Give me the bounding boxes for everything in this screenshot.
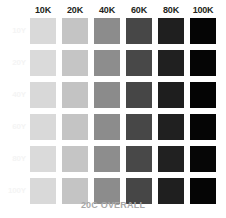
column-header-20k: 20K	[62, 3, 88, 18]
swatch-row: 10Y	[0, 18, 226, 44]
swatch-cell	[62, 82, 88, 108]
row-label-60y: 60Y	[0, 114, 30, 140]
swatch-cell	[158, 50, 184, 76]
swatch-row: 20Y	[0, 50, 226, 76]
swatch-row: 40Y	[0, 82, 226, 108]
swatch-cell	[62, 18, 88, 44]
column-header-100k: 100K	[190, 3, 216, 18]
swatch-cell	[190, 82, 216, 108]
swatch-cell	[94, 114, 120, 140]
column-header-80k: 80K	[158, 3, 184, 18]
swatch-row: 60Y	[0, 114, 226, 140]
swatch-cell	[126, 82, 152, 108]
swatch-row: 80Y	[0, 146, 226, 172]
swatch-grid: 10Y 20Y 40Y 60Y	[0, 18, 226, 198]
swatch-cell	[158, 114, 184, 140]
swatch-chart: 10K 20K 40K 60K 80K 100K 10Y 20Y 40Y	[0, 0, 226, 218]
swatch-cell	[126, 18, 152, 44]
swatch-cell	[94, 146, 120, 172]
swatch-cell	[30, 146, 56, 172]
swatch-cell	[126, 146, 152, 172]
row-label-80y: 80Y	[0, 146, 30, 172]
column-header-10k: 10K	[30, 3, 56, 18]
swatch-cell	[126, 114, 152, 140]
swatch-cell	[190, 114, 216, 140]
column-header-row: 10K 20K 40K 60K 80K 100K	[30, 3, 218, 18]
swatch-cell	[126, 50, 152, 76]
column-header-60k: 60K	[126, 3, 152, 18]
swatch-cell	[30, 18, 56, 44]
swatch-cell	[30, 50, 56, 76]
swatch-cell	[94, 18, 120, 44]
row-label-20y: 20Y	[0, 50, 30, 76]
column-header-40k: 40K	[94, 3, 120, 18]
swatch-cell	[62, 50, 88, 76]
chart-caption: 20C OVERALL	[0, 200, 226, 210]
swatch-cell	[62, 114, 88, 140]
swatch-cell	[158, 18, 184, 44]
row-label-40y: 40Y	[0, 82, 30, 108]
swatch-cell	[94, 50, 120, 76]
swatch-cell	[158, 146, 184, 172]
swatch-cell	[190, 18, 216, 44]
swatch-cell	[62, 146, 88, 172]
swatch-cell	[190, 146, 216, 172]
swatch-cell	[94, 82, 120, 108]
swatch-cell	[190, 50, 216, 76]
swatch-cell	[158, 82, 184, 108]
row-label-10y: 10Y	[0, 18, 30, 44]
swatch-cell	[30, 82, 56, 108]
swatch-cell	[30, 114, 56, 140]
